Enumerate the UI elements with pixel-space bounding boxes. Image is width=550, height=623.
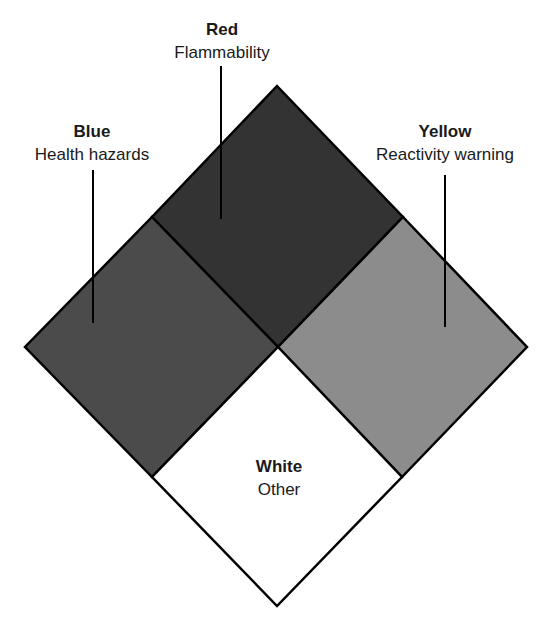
red-description: Flammability [174,43,270,62]
white-title: White [256,457,302,476]
yellow-title: Yellow [419,122,473,141]
blue-title: Blue [74,122,111,141]
hazard-diamond-diagram: Red Flammability Blue Health hazards Yel… [0,0,550,623]
red-title: Red [206,20,238,39]
blue-description: Health hazards [35,145,149,164]
yellow-description: Reactivity warning [376,145,514,164]
white-description: Other [258,480,301,499]
